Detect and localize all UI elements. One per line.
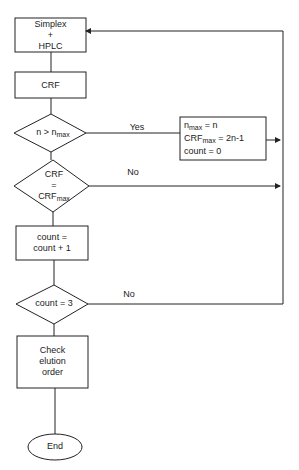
- decision3-label: count = 3: [20, 298, 88, 309]
- cropped-caption: [10, 461, 290, 467]
- increment-label: count = count + 1: [16, 232, 88, 254]
- crf-label: CRF: [15, 80, 86, 91]
- decision2-label: CRF = CRFmax: [28, 169, 80, 204]
- no-label-2: No: [114, 289, 144, 300]
- start-label: Simplex + HPLC: [15, 19, 86, 52]
- decision1-label: n > nmax: [20, 127, 86, 140]
- check-label: Check elution order: [17, 345, 88, 378]
- update-label: nmax = n CRFmax = 2n-1 count = 0: [184, 120, 264, 157]
- end-label: End: [28, 441, 82, 452]
- no-label-1: No: [118, 167, 148, 178]
- yes-label: Yes: [122, 122, 152, 133]
